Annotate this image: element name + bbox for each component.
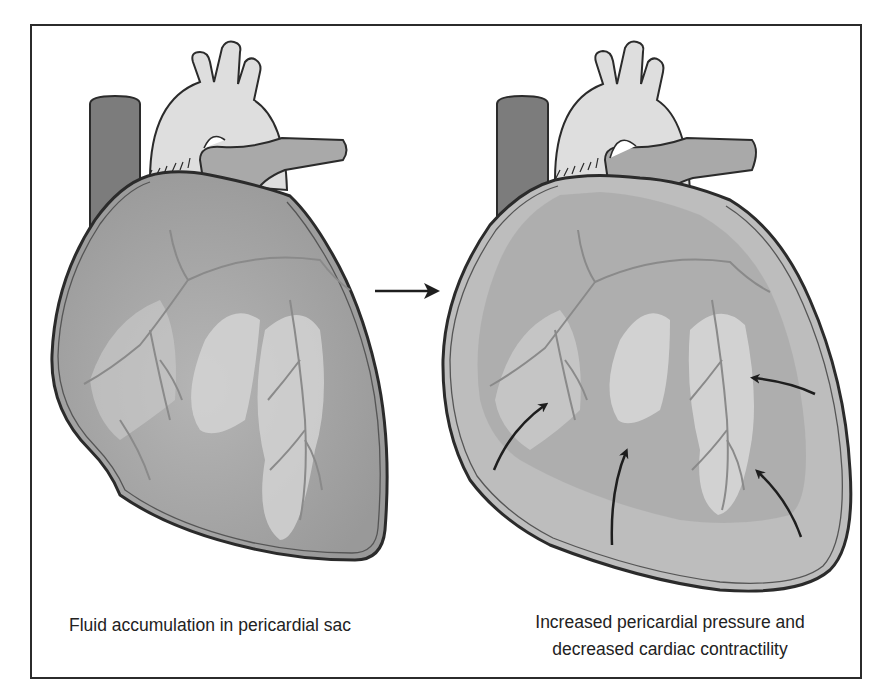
caption-right-line-2: decreased cardiac contractility	[505, 636, 835, 663]
heart-left-illustration	[52, 42, 387, 560]
heart-right-illustration	[443, 42, 851, 592]
caption-left: Fluid accumulation in pericardial sac	[60, 612, 360, 639]
diagram-svg	[0, 0, 892, 697]
caption-right: Increased pericardial pressure and decre…	[505, 609, 835, 663]
caption-right-line-1: Increased pericardial pressure and	[505, 609, 835, 636]
diagram-figure: Fluid accumulation in pericardial sac In…	[0, 0, 892, 697]
